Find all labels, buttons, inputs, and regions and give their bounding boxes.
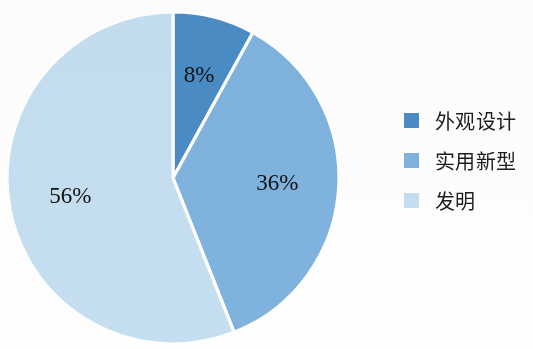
pie-slice-value-label: 36% [256,170,298,195]
pie-chart: 8%36%56% 外观设计 实用新型 发明 [0,0,533,349]
pie-slice-value-label: 8% [184,62,215,87]
legend-item-faming[interactable]: 发明 [404,180,529,220]
legend-swatch-icon [404,113,419,128]
pie-slice-value-label: 56% [49,183,91,208]
chart-legend: 外观设计 实用新型 发明 [404,100,529,220]
legend-item-label: 外观设计 [435,106,517,135]
legend-item-shiyong-xinxing[interactable]: 实用新型 [404,140,529,180]
legend-item-label: 实用新型 [435,146,517,175]
legend-swatch-icon [404,153,419,168]
legend-item-label: 发明 [435,186,476,215]
legend-swatch-icon [404,193,419,208]
legend-item-waiguan-sheji[interactable]: 外观设计 [404,100,529,140]
